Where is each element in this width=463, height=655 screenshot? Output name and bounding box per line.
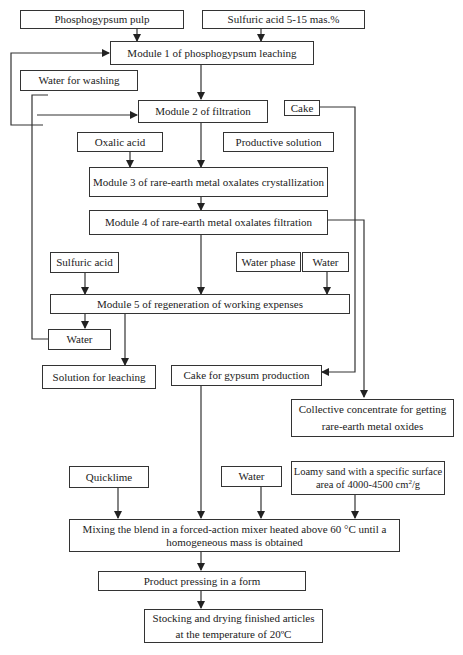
box-water-phase: Water phase [236,252,301,272]
box-module-4: Module 4 of rare-earth metal oxalates fi… [89,210,328,235]
label-line-1: Collective concentrate for getting [299,403,447,416]
box-mixing: Mixing the blend in a forced-action mixe… [69,519,400,552]
flowchart-canvas: Phosphogypsum pulp Sulfuric acid 5-15 ma… [0,0,463,655]
label: Sulfuric acid 5-15 mas.% [228,13,340,26]
label: Productive solution [236,136,322,149]
box-water-bottom: Water [221,466,282,487]
label: Module 2 of filtration [155,105,251,118]
label: Water for washing [39,74,120,87]
label: Cake [291,102,314,115]
label: Module 3 of rare-earth metal oxalates cr… [93,176,324,189]
label: Sulfuric acid [56,256,113,269]
label: Water [239,470,265,483]
box-cake: Cake [284,100,320,116]
box-loamy-sand: Loamy sand with a specific surface area … [291,461,445,495]
label: Water [67,333,93,346]
connector-lines [0,0,463,655]
box-oxalic-acid: Oxalic acid [77,132,163,152]
label-line-1: Loamy sand with a specific surface [294,465,442,478]
box-module-3: Module 3 of rare-earth metal oxalates cr… [89,167,328,197]
label: Water [313,256,339,269]
label: Solution for leaching [53,371,146,384]
label-line-1: Stocking and drying finished articles [153,612,315,625]
box-quicklime: Quicklime [69,466,149,488]
box-pressing: Product pressing in a form [98,571,306,591]
box-phosphogypsum-pulp: Phosphogypsum pulp [20,10,184,29]
box-productive-solution: Productive solution [223,132,334,152]
label: Phosphogypsum pulp [54,13,149,26]
box-module-1: Module 1 of phosphogypsum leaching [110,41,314,65]
label-line-2: at the temperature of 20ºC [176,628,292,641]
box-solution-for-leaching: Solution for leaching [42,365,156,389]
label: Product pressing in a form [144,575,261,588]
label: Module 5 of regeneration of working expe… [97,298,303,311]
label: Cake for gypsum production [183,369,309,382]
box-stocking: Stocking and drying finished articles at… [144,609,323,643]
label: Oxalic acid [95,136,145,149]
box-water-mid: Water [48,329,111,350]
box-water-for-washing: Water for washing [20,70,138,91]
box-sulfuric-acid-5-15: Sulfuric acid 5-15 mas.% [202,10,365,29]
label: Quicklime [86,471,132,484]
box-collective-concentrate: Collective concentrate for getting rare-… [291,399,454,437]
box-sulfuric-acid: Sulfuric acid [50,252,119,273]
box-module-5: Module 5 of regeneration of working expe… [50,294,350,314]
label-prefix: area of 4000-4500 cm [316,479,408,490]
label-suffix: /g [412,479,420,490]
label-line-2: homogeneous mass is obtained [166,536,303,549]
label: Module 4 of rare-earth metal oxalates fi… [105,216,312,229]
box-water-top: Water [302,252,349,272]
label: Module 1 of phosphogypsum leaching [127,47,296,60]
label-line-1: Mixing the blend in a forced-action mixe… [83,523,387,536]
label: Water phase [242,256,296,269]
label-line-2: rare-earth metal oxides [322,420,423,433]
box-cake-for-gypsum: Cake for gypsum production [171,365,322,386]
label-line-2: area of 4000-4500 cm2/g [316,478,420,491]
box-module-2: Module 2 of filtration [138,100,268,123]
